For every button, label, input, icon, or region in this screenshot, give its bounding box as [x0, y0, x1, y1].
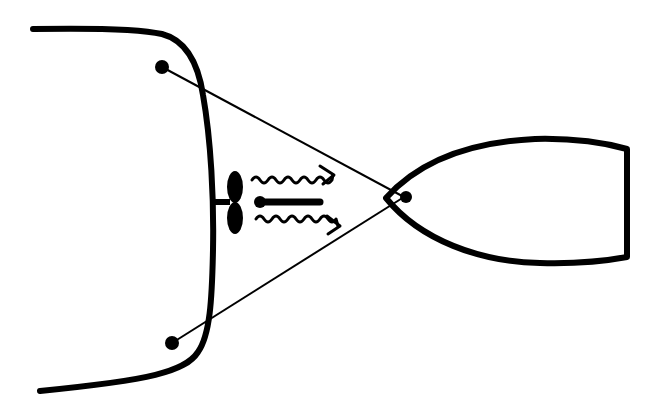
- small-boat-hull: [386, 139, 627, 263]
- tow-anchor-lower-icon: [165, 336, 179, 350]
- tow-anchor-bow-icon: [400, 191, 412, 203]
- thrust-arrow-icon: [254, 196, 320, 208]
- tow-anchor-upper-icon: [155, 60, 169, 74]
- sketch-canvas: [0, 0, 666, 418]
- large-vessel-hull: [33, 29, 213, 391]
- wash-arrow-lower-icon: [256, 216, 340, 234]
- tow-line-upper: [162, 67, 404, 197]
- wash-arrow-upper-icon: [252, 166, 334, 184]
- propeller-icon: [213, 171, 243, 234]
